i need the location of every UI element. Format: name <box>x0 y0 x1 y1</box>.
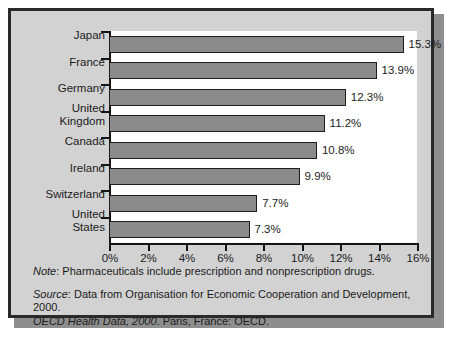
figure-frame: JapanFranceGermanyUnited KingdomCanadaIr… <box>8 8 434 318</box>
x-axis-tick-label: 10% <box>283 252 323 264</box>
y-axis-tick <box>101 164 110 166</box>
x-axis-tick <box>417 245 419 251</box>
source-label: Source <box>33 288 68 300</box>
y-axis-tick <box>101 190 110 192</box>
x-axis-tick-label: 0% <box>90 252 130 264</box>
source-italic-continuation: OECD Health Data, 2000 <box>33 315 157 327</box>
bar-value-label: 7.3% <box>255 221 281 238</box>
note-line: Note: Pharmaceuticals include prescripti… <box>33 265 417 279</box>
y-axis-tick <box>101 111 110 113</box>
source-text: : Data from Organisation for Economic Co… <box>33 288 410 314</box>
x-axis-tick-label: 8% <box>244 252 284 264</box>
x-axis-tick-label: 2% <box>129 252 169 264</box>
category-label: United Kingdom <box>21 102 105 127</box>
bar-chart: JapanFranceGermanyUnited KingdomCanadaIr… <box>21 21 425 253</box>
x-axis-tick <box>340 245 342 251</box>
category-label: Ireland <box>21 162 105 175</box>
y-axis-tick <box>101 137 110 139</box>
bar-value-label: 9.9% <box>305 168 331 185</box>
x-axis-tick <box>302 245 304 251</box>
x-axis-tick-label: 4% <box>167 252 207 264</box>
x-axis-tick <box>263 245 265 251</box>
category-label: Germany <box>21 82 105 95</box>
bar <box>109 221 250 238</box>
x-axis-tick-label: 12% <box>321 252 361 264</box>
y-axis-tick <box>101 58 110 60</box>
source-line: Source: Data from Organisation for Econo… <box>33 288 417 329</box>
y-axis-tick <box>101 31 110 33</box>
x-axis-tick-label: 16% <box>398 252 438 264</box>
y-axis-tick <box>101 217 110 219</box>
category-label: United States <box>21 208 105 233</box>
bar <box>109 168 300 185</box>
x-axis-tick <box>186 245 188 251</box>
category-label: Japan <box>21 29 105 42</box>
source-text-continuation: . Paris, France: OECD. <box>157 315 269 327</box>
bar <box>109 89 346 106</box>
bar <box>109 115 325 132</box>
x-axis-tick <box>148 245 150 251</box>
x-axis-tick <box>225 245 227 251</box>
bar-value-label: 15.3% <box>409 36 442 53</box>
bar <box>109 195 257 212</box>
x-axis-tick <box>109 245 111 251</box>
x-axis-tick-label: 14% <box>360 252 400 264</box>
x-axis-tick-label: 6% <box>206 252 246 264</box>
bar-value-label: 12.3% <box>351 89 384 106</box>
chart-figure: JapanFranceGermanyUnited KingdomCanadaIr… <box>8 8 444 328</box>
bar <box>109 62 377 79</box>
category-label: Switzerland <box>21 188 105 201</box>
note-label: Note <box>33 265 56 277</box>
bar <box>109 36 404 53</box>
bar-value-label: 13.9% <box>382 62 415 79</box>
bar-value-label: 7.7% <box>262 195 288 212</box>
category-label: France <box>21 56 105 69</box>
note-text: : Pharmaceuticals include prescription a… <box>56 265 375 277</box>
bar-value-label: 11.2% <box>330 115 362 132</box>
category-axis-labels: JapanFranceGermanyUnited KingdomCanadaIr… <box>21 35 105 247</box>
footnotes: Note: Pharmaceuticals include prescripti… <box>33 265 417 328</box>
figure-inner: JapanFranceGermanyUnited KingdomCanadaIr… <box>11 11 431 315</box>
x-axis-tick <box>379 245 381 251</box>
category-label: Canada <box>21 135 105 148</box>
bar <box>109 142 317 159</box>
bar-value-label: 10.8% <box>322 142 355 159</box>
y-axis-tick <box>101 84 110 86</box>
